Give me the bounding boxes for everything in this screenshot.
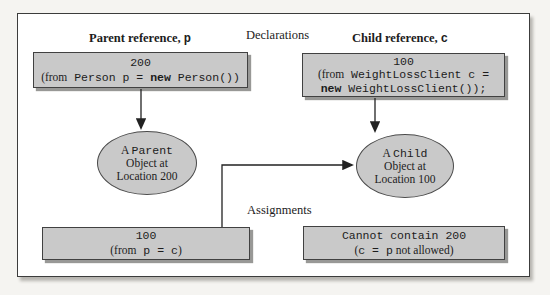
parent-reference-header: Parent reference, p <box>35 31 245 46</box>
declarations-label: Declarations <box>246 28 309 43</box>
parent-object-class: Parent <box>132 144 173 157</box>
parent-assign-from: (from <box>110 244 136 256</box>
parent-assign-code: p = c <box>136 244 177 257</box>
child-object-a: A <box>382 147 393 159</box>
parent-decl-keyword: new <box>150 71 171 84</box>
child-decl-code-line2: new WeightLossClient()); <box>303 82 504 96</box>
child-header-text: Child reference, <box>352 31 441 45</box>
parent-object-ellipse: A Parent Object at Location 200 <box>97 131 197 195</box>
child-header-var: c <box>441 32 448 46</box>
child-declaration-box: 100 (from WeightLossClient c = new Weigh… <box>302 53 505 97</box>
child-assignment-box: Cannot contain 200 (c = p not allowed) <box>303 226 505 260</box>
parent-assignment-box: 100 (from p = c) <box>42 227 250 260</box>
parent-object-a: A <box>121 144 132 156</box>
child-object-ellipse: A Child Object at Location 100 <box>356 134 454 198</box>
parent-assign-value: 100 <box>43 229 249 243</box>
parent-assign-code-line: (from p = c) <box>43 243 249 258</box>
parent-declaration-box: 200 (from Person p = new Person()) <box>33 52 248 88</box>
parent-decl-rest: Person()) <box>171 71 240 84</box>
parent-header-var: p <box>184 32 191 46</box>
child-decl-from: (from <box>318 68 344 80</box>
parent-object-line1: A Parent <box>98 144 196 157</box>
child-assign-rest: not allowed) <box>393 244 454 256</box>
parent-object-line2: Object at <box>98 157 196 170</box>
child-decl-value: 100 <box>303 55 504 69</box>
child-decl-code-line1: (from WeightLossClient c = <box>303 68 504 82</box>
child-assign-line2: (c = p not allowed) <box>304 243 504 258</box>
child-decl-code: WeightLossClient c = <box>344 68 489 81</box>
assignments-label: Assignments <box>247 203 312 218</box>
parent-decl-code: Person p = <box>67 71 150 84</box>
child-assign-line1: Cannot contain 200 <box>304 229 504 243</box>
child-object-line2: Object at <box>357 160 453 173</box>
child-reference-header: Child reference, c <box>300 31 500 46</box>
parent-decl-code-line: (from Person p = new Person()) <box>34 70 247 85</box>
parent-header-text: Parent reference, <box>89 31 184 45</box>
child-decl-rest: WeightLossClient()); <box>341 82 486 95</box>
diagram-page: { "colors": { "page_bg": "#f5f4f1", "fra… <box>0 0 550 295</box>
parent-object-line3: Location 200 <box>98 170 196 183</box>
child-object-line3: Location 100 <box>357 173 453 186</box>
child-decl-keyword: new <box>321 82 342 95</box>
child-object-class: Child <box>393 147 428 160</box>
child-object-line1: A Child <box>357 147 453 160</box>
parent-assign-close: ) <box>178 244 182 256</box>
child-assign-code: c = p <box>358 244 393 257</box>
parent-decl-value: 200 <box>34 56 247 70</box>
parent-decl-from: (from <box>41 71 67 83</box>
